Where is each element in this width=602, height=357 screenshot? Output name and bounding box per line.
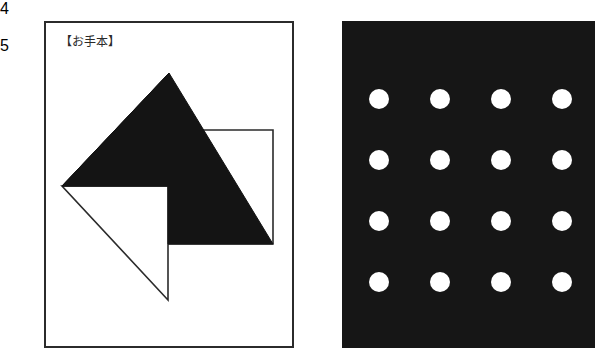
grid-dot: [430, 211, 450, 231]
grid-dot: [491, 272, 511, 292]
grid-dot: [491, 211, 511, 231]
grid-dot: [369, 211, 389, 231]
panel-4: 【お手本】: [44, 21, 294, 348]
grid-dot: [552, 150, 572, 170]
grid-dot: [552, 272, 572, 292]
grid-dot: [491, 89, 511, 109]
grid-dot: [552, 211, 572, 231]
figure-root: 4 【お手本】 5: [0, 0, 602, 357]
grid-dot: [491, 150, 511, 170]
dot-grid-background: [342, 21, 595, 348]
grid-dot: [430, 150, 450, 170]
triangle-outline-shape: [62, 186, 168, 300]
grid-dot: [430, 89, 450, 109]
grid-dot: [552, 89, 572, 109]
grid-dot: [369, 272, 389, 292]
panel-number-badge-5: 5: [0, 37, 31, 74]
grid-dot: [369, 150, 389, 170]
panel-5: [342, 21, 595, 348]
grid-dot: [369, 89, 389, 109]
dot-grid-4x4: [342, 21, 595, 348]
pinwheel-arrow-diagram: [46, 23, 292, 346]
grid-dot: [430, 272, 450, 292]
panel-number-badge-4: 4: [0, 0, 31, 37]
